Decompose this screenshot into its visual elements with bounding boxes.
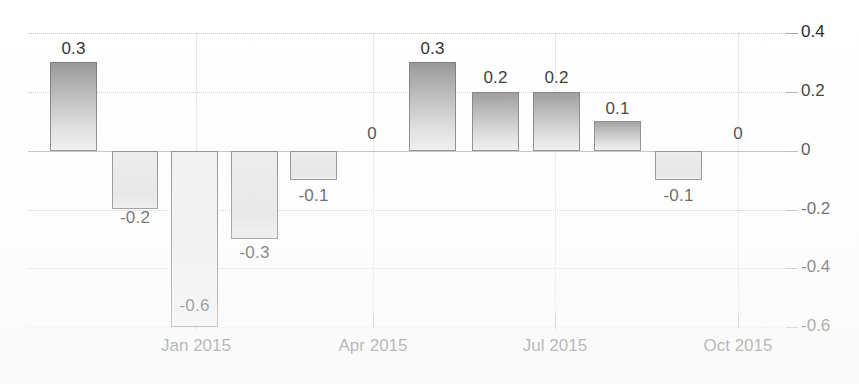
x-tick-label: Jan 2015 (136, 336, 256, 356)
y-tick-label: 0.2 (801, 81, 825, 101)
y-tick-label: 0 (801, 140, 810, 160)
x-tick-mark-apr-2015 (373, 315, 374, 329)
bar (290, 151, 337, 180)
y-tick-label: 0.4 (801, 22, 825, 42)
gridline-y--0.4 (28, 268, 790, 269)
y-tick-mark-0 (786, 151, 798, 152)
y-tick-mark--0.4 (786, 268, 798, 269)
gridline-y--0.6 (28, 327, 790, 328)
x-tick-mark-jul-2015 (555, 315, 556, 329)
bar-chart: 0.40.20-0.2-0.4-0.6 Jan 2015Apr 2015Jul … (0, 0, 859, 384)
x-tick-mark-oct-2015 (738, 315, 739, 329)
bar (594, 121, 641, 150)
bar-value-label: 0.3 (409, 39, 456, 59)
x-tick-label: Oct 2015 (678, 336, 798, 356)
zero-value-label: 0 (358, 124, 386, 144)
gridline-x-apr-2015 (373, 33, 374, 327)
bar (50, 62, 97, 150)
bar (231, 151, 278, 239)
bar-value-label: 0.3 (50, 39, 97, 59)
x-tick-label: Apr 2015 (313, 336, 433, 356)
bar-value-label: -0.1 (285, 186, 342, 206)
bar (112, 151, 158, 210)
zero-value-label: 0 (724, 124, 752, 144)
bar-value-label: 0.1 (594, 99, 641, 119)
x-tick-label: Jul 2015 (495, 336, 615, 356)
y-tick-label: -0.4 (801, 257, 830, 277)
gridline-y-0.4 (28, 33, 790, 34)
bar (472, 92, 519, 151)
bar (533, 92, 580, 151)
bar-value-label: -0.6 (166, 296, 223, 316)
y-tick-label: -0.6 (801, 316, 830, 336)
y-tick-mark--0.2 (786, 210, 798, 211)
plot-area (28, 33, 790, 327)
y-tick-mark-0.4 (786, 33, 798, 34)
bar (409, 62, 456, 150)
bar-value-label: -0.3 (226, 243, 283, 263)
bar (655, 151, 702, 180)
y-tick-mark-0.2 (786, 92, 798, 93)
bar-value-label: 0.2 (472, 68, 519, 88)
y-tick-label: -0.2 (801, 199, 830, 219)
gridline-x-oct-2015 (738, 33, 739, 327)
bar-value-label: 0.2 (533, 68, 580, 88)
bar-value-label: -0.2 (107, 208, 163, 228)
bar-value-label: -0.1 (650, 186, 707, 206)
y-tick-mark--0.6 (786, 327, 798, 328)
